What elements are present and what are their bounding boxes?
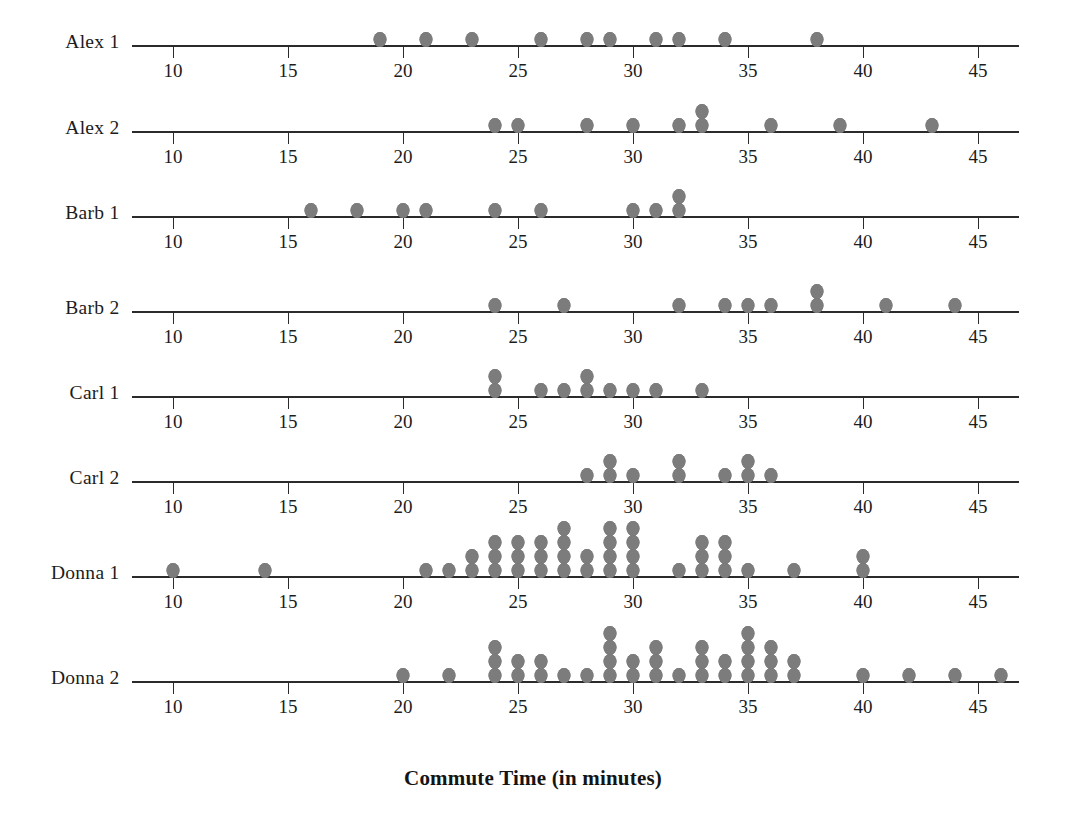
x-axis-tick xyxy=(748,683,749,694)
x-axis-tick-label: 25 xyxy=(509,411,528,433)
dot-plot-row: Barb 21015202530354045 xyxy=(0,286,1066,382)
x-axis-tick-label: 35 xyxy=(739,231,758,253)
x-axis-tick xyxy=(403,683,404,694)
data-point xyxy=(788,563,801,578)
data-point xyxy=(788,668,801,683)
data-point xyxy=(696,535,709,550)
x-axis-tick-label: 30 xyxy=(624,591,643,613)
row-label-carl-1: Carl 1 xyxy=(0,382,120,404)
x-axis-tick-label: 25 xyxy=(509,696,528,718)
data-point xyxy=(535,563,548,578)
data-point xyxy=(443,563,456,578)
x-axis-tick xyxy=(978,133,979,144)
dot-plot-figure: Alex 11015202530354045Alex 2101520253035… xyxy=(0,0,1066,822)
data-point xyxy=(581,563,594,578)
x-axis-tick-label: 45 xyxy=(969,496,988,518)
x-axis-tick xyxy=(978,578,979,589)
x-axis-tick xyxy=(978,47,979,58)
x-axis-tick-label: 25 xyxy=(509,231,528,253)
dot-plot-row: Barb 11015202530354045 xyxy=(0,191,1066,287)
data-point xyxy=(742,454,755,469)
data-point xyxy=(604,454,617,469)
x-axis-tick-label: 35 xyxy=(739,591,758,613)
data-point xyxy=(489,654,502,669)
data-point xyxy=(420,563,433,578)
x-axis-tick xyxy=(403,218,404,229)
x-axis-tick-label: 15 xyxy=(279,326,298,348)
data-point xyxy=(512,563,525,578)
x-axis-tick xyxy=(748,133,749,144)
data-point xyxy=(903,668,916,683)
x-axis-tick xyxy=(288,133,289,144)
data-point xyxy=(489,383,502,398)
dot-plot-row: Carl 21015202530354045 xyxy=(0,456,1066,552)
dot-plot-row: Carl 11015202530354045 xyxy=(0,371,1066,467)
data-point xyxy=(696,549,709,564)
data-point xyxy=(765,654,778,669)
x-axis-tick-label: 10 xyxy=(164,411,183,433)
x-axis-tick xyxy=(978,218,979,229)
data-point xyxy=(857,668,870,683)
data-point xyxy=(259,563,272,578)
x-axis-tick-label: 20 xyxy=(394,231,413,253)
x-axis-tick xyxy=(173,578,174,589)
x-axis-tick-label: 45 xyxy=(969,60,988,82)
x-axis-tick xyxy=(978,483,979,494)
data-point xyxy=(673,454,686,469)
x-axis-tick-label: 35 xyxy=(739,326,758,348)
data-point xyxy=(765,640,778,655)
data-point xyxy=(604,521,617,536)
x-axis-title: Commute Time (in minutes) xyxy=(0,766,1066,791)
x-axis-tick xyxy=(403,578,404,589)
data-point xyxy=(627,468,640,483)
data-point xyxy=(489,369,502,384)
data-point xyxy=(558,383,571,398)
dot-plot-row: Donna 11015202530354045 xyxy=(0,551,1066,647)
data-point xyxy=(673,668,686,683)
data-point xyxy=(719,668,732,683)
x-axis-tick-label: 45 xyxy=(969,146,988,168)
data-point xyxy=(742,468,755,483)
data-point xyxy=(857,549,870,564)
x-axis-tick xyxy=(288,47,289,58)
x-axis-tick-label: 45 xyxy=(969,591,988,613)
data-point xyxy=(167,563,180,578)
data-point xyxy=(742,668,755,683)
data-point xyxy=(489,549,502,564)
x-axis-tick-label: 45 xyxy=(969,696,988,718)
data-point xyxy=(949,668,962,683)
x-axis-tick-label: 10 xyxy=(164,326,183,348)
data-point xyxy=(627,203,640,218)
x-axis-line xyxy=(132,396,1020,398)
x-axis-tick-label: 25 xyxy=(509,146,528,168)
x-axis-tick xyxy=(748,47,749,58)
data-point xyxy=(650,383,663,398)
x-axis-tick xyxy=(748,313,749,324)
x-axis-tick xyxy=(748,483,749,494)
x-axis-tick xyxy=(518,578,519,589)
data-point xyxy=(512,535,525,550)
x-axis-tick-label: 40 xyxy=(854,496,873,518)
x-axis-tick-label: 10 xyxy=(164,146,183,168)
data-point xyxy=(627,118,640,133)
x-axis-tick xyxy=(173,313,174,324)
data-point xyxy=(489,563,502,578)
data-point xyxy=(420,32,433,47)
data-point xyxy=(604,32,617,47)
row-label-barb-2: Barb 2 xyxy=(0,297,120,319)
data-point xyxy=(581,118,594,133)
x-axis-tick xyxy=(863,218,864,229)
data-point xyxy=(512,654,525,669)
data-point xyxy=(604,654,617,669)
data-point xyxy=(811,298,824,313)
data-point xyxy=(581,549,594,564)
data-point xyxy=(581,369,594,384)
data-point xyxy=(581,32,594,47)
data-point xyxy=(535,383,548,398)
x-axis-tick-label: 40 xyxy=(854,591,873,613)
x-axis-tick-label: 10 xyxy=(164,60,183,82)
data-point xyxy=(696,668,709,683)
x-axis-tick xyxy=(863,47,864,58)
x-axis-tick xyxy=(863,483,864,494)
x-axis-tick-label: 20 xyxy=(394,146,413,168)
